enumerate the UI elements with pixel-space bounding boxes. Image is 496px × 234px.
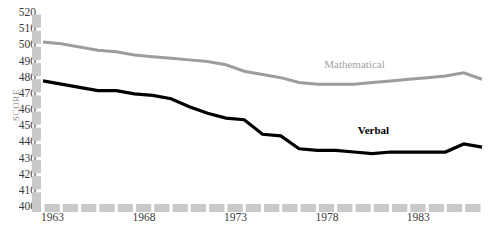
sat-score-trend-chart: SCORE 5205105004904804704604504404304204… [0,0,496,234]
series-label-mathematical: Mathematical [324,58,384,70]
x-axis-bar [32,195,481,212]
plot-area [0,0,496,234]
series-label-verbal: Verbal [358,124,389,136]
y-axis-bar [32,15,41,206]
series-line-mathematical [43,42,482,84]
series-lines [43,42,482,154]
series-line-verbal [43,81,482,154]
